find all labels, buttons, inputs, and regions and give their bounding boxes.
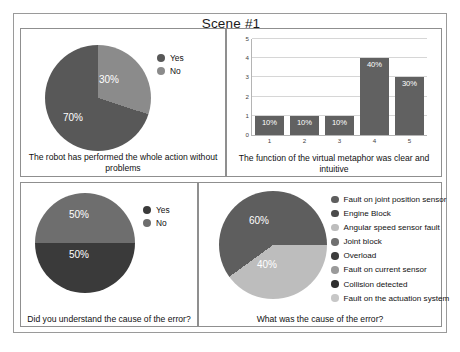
legend-item-overload: Overload	[331, 251, 449, 260]
bar-value-label: 40%	[360, 60, 389, 69]
x-axis-tick-2: 2	[290, 137, 319, 144]
pie-chart-robot-performed	[45, 45, 151, 151]
y-axis-tick-1: 1	[246, 111, 249, 118]
bar: 30%	[395, 77, 424, 135]
pie-slice-label-yes: 70%	[63, 112, 83, 123]
panel-body-bottom-left: 50% 50% Yes No	[21, 183, 197, 302]
bar-column-3: 10% 3	[325, 39, 354, 135]
panel-caption-bottom-right: What was the cause of the error?	[201, 314, 439, 325]
y-axis-tick-2: 2	[246, 92, 249, 99]
pie-slice-label-yes: 50%	[69, 249, 89, 260]
legend-item-joint-block: Joint block	[331, 237, 449, 246]
legend-yes-no-top-left: Yes No	[157, 53, 184, 79]
legend-label-collision-detected: Collision detected	[344, 280, 408, 289]
panel-cause-of-error: 60% 40% Fault on joint position sensor E…	[198, 182, 442, 327]
legend-item-no: No	[143, 218, 170, 228]
panel-caption-top-right: The function of the virtual metaphor was…	[229, 153, 439, 175]
legend-label-fault-actuation-system: Fault on the actuation system	[344, 294, 450, 303]
bar: 10%	[325, 116, 354, 135]
x-axis-tick-3: 3	[325, 137, 354, 144]
bar-column-4: 40% 4	[360, 39, 389, 135]
legend-item-no: No	[157, 66, 184, 76]
bar-chart-virtual-metaphor: 5 4 3 2 1	[233, 37, 437, 150]
panel-robot-performed-action: 30% 70% Yes No The robot has performed t…	[20, 28, 226, 177]
legend-swatch-icon	[331, 252, 339, 260]
legend-label-yes: Yes	[156, 205, 170, 215]
legend-label-joint-block: Joint block	[344, 237, 382, 246]
panel-caption-top-left: The robot has performed the whole action…	[23, 152, 223, 174]
legend-label-no: No	[170, 66, 181, 76]
legend-item-fault-joint-position-sensor: Fault on joint position sensor	[331, 195, 449, 204]
bar-value-label: 10%	[255, 118, 284, 127]
panel-body-bottom-right: 60% 40% Fault on joint position sensor E…	[199, 183, 441, 302]
legend-item-yes: Yes	[157, 53, 184, 63]
legend-label-fault-current-sensor: Fault on current sensor	[344, 265, 427, 274]
legend-swatch-icon	[331, 294, 339, 302]
legend-swatch-icon	[143, 206, 151, 214]
pie-slice-label-no: 30%	[99, 74, 119, 85]
legend-item-angular-speed-sensor-fault: Angular speed sensor fault	[331, 223, 449, 232]
legend-error-causes: Fault on joint position sensor Engine Bl…	[331, 195, 449, 308]
legend-swatch-icon	[331, 280, 339, 288]
legend-label-overload: Overload	[344, 251, 377, 260]
bar-value-label: 10%	[290, 118, 319, 127]
legend-swatch-icon	[331, 224, 339, 232]
bar-series: 10% 1 10% 2	[252, 39, 427, 135]
panel-caption-bottom-left: Did you understand the cause of the erro…	[23, 314, 195, 325]
panel-virtual-metaphor-clarity: 5 4 3 2 1	[226, 28, 442, 177]
legend-label-fault-joint-position-sensor: Fault on joint position sensor	[344, 195, 447, 204]
figure-frame: Scene #1 30% 70% Yes No The r	[13, 13, 447, 333]
legend-swatch-icon	[331, 210, 339, 218]
pie-slice-label-no: 50%	[69, 209, 89, 220]
legend-item-fault-actuation-system: Fault on the actuation system	[331, 294, 449, 303]
legend-swatch-icon	[143, 219, 151, 227]
legend-item-fault-current-sensor: Fault on current sensor	[331, 265, 449, 274]
figure-page: Scene #1 30% 70% Yes No The r	[0, 0, 460, 352]
panel-body-top-left: 30% 70% Yes No	[21, 29, 225, 152]
legend-swatch-icon	[157, 54, 165, 62]
pie-slice-label-minor: 40%	[257, 259, 277, 270]
bar-column-5: 30% 5	[395, 39, 424, 135]
bar-value-label: 10%	[325, 118, 354, 127]
pie-chart-cause-of-error	[219, 191, 327, 299]
bar: 10%	[255, 116, 284, 135]
legend-swatch-icon	[331, 238, 339, 246]
pie-slice-label-major: 60%	[249, 215, 269, 226]
bar: 40%	[360, 58, 389, 135]
x-axis-tick-5: 5	[395, 137, 424, 144]
legend-swatch-icon	[157, 67, 165, 75]
x-axis-tick-1: 1	[255, 137, 284, 144]
bar-column-1: 10% 1	[255, 39, 284, 135]
y-axis-tick-3: 3	[246, 73, 249, 80]
legend-swatch-icon	[331, 266, 339, 274]
legend-label-angular-speed-sensor-fault: Angular speed sensor fault	[344, 223, 440, 232]
x-axis-tick-4: 4	[360, 137, 389, 144]
legend-item-collision-detected: Collision detected	[331, 280, 449, 289]
pie-chart-understand-error	[35, 193, 135, 293]
y-axis-tick-4: 4	[246, 54, 249, 61]
legend-swatch-icon	[331, 196, 339, 204]
bar-value-label: 30%	[395, 79, 424, 88]
panel-understand-cause-of-error: 50% 50% Yes No Did you understand the ca…	[20, 182, 198, 327]
legend-label-engine-block: Engine Block	[344, 209, 391, 218]
legend-item-engine-block: Engine Block	[331, 209, 449, 218]
legend-label-yes: Yes	[170, 53, 184, 63]
legend-item-yes: Yes	[143, 205, 170, 215]
legend-yes-no-bottom-left: Yes No	[143, 205, 170, 231]
y-axis-tick-5: 5	[246, 35, 249, 42]
bar: 10%	[290, 116, 319, 135]
y-axis-tick-0: 0	[246, 131, 249, 138]
legend-label-no: No	[156, 218, 167, 228]
panel-body-top-right: 5 4 3 2 1	[227, 29, 441, 152]
bar-chart-plot-area: 5 4 3 2 1	[251, 39, 427, 136]
bar-column-2: 10% 2	[290, 39, 319, 135]
